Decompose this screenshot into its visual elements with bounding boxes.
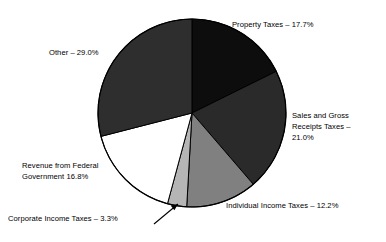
slice-label-other: Other – 29.0% <box>49 47 99 58</box>
slice-label-individual-income-taxes: Individual Income Taxes – 12.2% <box>226 200 338 211</box>
slice-label-sales-line-1: Sales and Gross <box>292 111 349 120</box>
slice-label-individual-income-taxes-text: Individual Income Taxes – 12.2% <box>226 201 338 210</box>
slice-label-sales-and-gross-receipts-taxes: Sales and Gross Receipts Taxes – 21.0% <box>292 110 362 144</box>
slice-label-property-taxes-text: Property Taxes – 17.7% <box>232 20 314 29</box>
slice-label-sales-line-3: 21.0% <box>292 133 314 142</box>
slice-label-federal-line-2: Government 16.8% <box>22 172 88 181</box>
slice-label-sales-line-2: Receipts Taxes – <box>292 122 351 131</box>
slice-label-federal-line-1: Revenue from Federal <box>22 161 99 170</box>
slice-label-revenue-from-federal-government: Revenue from Federal Government 16.8% <box>22 160 132 182</box>
pie-chart-figure: Property Taxes – 17.7% Sales and Gross R… <box>0 0 386 242</box>
slice-label-property-taxes: Property Taxes – 17.7% <box>232 19 314 30</box>
slice-label-other-text: Other – 29.0% <box>49 48 99 57</box>
slice-label-corporate-income-taxes: Corporate Income Taxes – 3.3% <box>8 213 118 224</box>
slice-label-corporate-income-taxes-text: Corporate Income Taxes – 3.3% <box>8 214 118 223</box>
leader-line-group <box>154 204 178 224</box>
